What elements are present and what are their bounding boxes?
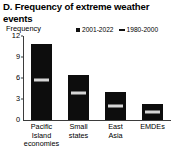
marker-1980-2000 — [34, 79, 48, 82]
legend-square-icon — [76, 28, 80, 32]
marker-1980-2000 — [108, 105, 122, 108]
legend-dash-icon — [119, 29, 125, 30]
bar-2001-2022 — [31, 44, 52, 120]
y-tick-mark — [21, 78, 24, 79]
y-axis-line — [23, 36, 24, 120]
y-tick-label: 3 — [16, 95, 20, 103]
x-category-label: EMDEs — [130, 123, 173, 132]
bar-group — [31, 36, 52, 120]
bar-group — [68, 36, 89, 120]
legend-item-1980-2000: 1980-2000 — [119, 26, 159, 34]
y-tick-label: 6 — [16, 74, 20, 82]
y-tick-mark — [21, 99, 24, 100]
marker-1980-2000 — [71, 91, 85, 94]
y-tick-mark — [21, 57, 24, 58]
bar-group — [105, 36, 126, 120]
chart-legend: 2001-2022 1980-2000 — [76, 26, 158, 34]
marker-1980-2000 — [145, 110, 159, 113]
y-tick-label: 12 — [12, 32, 20, 40]
x-axis-line — [23, 120, 171, 121]
legend-label: 2001-2022 — [82, 26, 114, 34]
x-category-label-line: Asia — [93, 132, 138, 141]
x-category-label-line: economies — [19, 140, 64, 149]
legend-label: 1980-2000 — [127, 26, 159, 34]
y-tick-label: 9 — [16, 53, 20, 61]
chart-panel: D. Frequency of extreme weather events F… — [0, 0, 173, 156]
plot-area: 036912 — [23, 36, 171, 121]
bar-2001-2022 — [68, 75, 89, 121]
x-axis-category-labels: PacificIslandeconomiesSmallstatesEastAsi… — [23, 123, 171, 156]
x-category-label-line: EMDEs — [130, 123, 173, 132]
y-tick-mark — [21, 36, 24, 37]
bar-group — [142, 36, 163, 120]
legend-item-2001-2022: 2001-2022 — [76, 26, 114, 34]
page-title: D. Frequency of extreme weather events — [3, 1, 170, 24]
